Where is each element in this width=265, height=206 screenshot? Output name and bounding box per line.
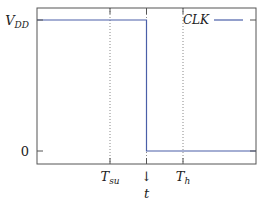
- legend: CLK: [183, 13, 243, 27]
- legend-label: CLK: [183, 13, 210, 27]
- x-tick-label: ↓: [141, 169, 152, 184]
- x-tick-label: Th: [176, 169, 190, 186]
- y-tick-label: VDD: [5, 13, 29, 30]
- series-line-clk: [37, 20, 256, 151]
- ticks-group: VDD0Tsu↓Th: [5, 8, 256, 186]
- x-axis-label: t: [144, 186, 150, 201]
- x-tick-label: Tsu: [100, 169, 119, 186]
- y-tick-label: 0: [21, 144, 29, 159]
- series-group: [37, 20, 256, 151]
- chart: VDD0Tsu↓Th CLK t: [0, 0, 265, 206]
